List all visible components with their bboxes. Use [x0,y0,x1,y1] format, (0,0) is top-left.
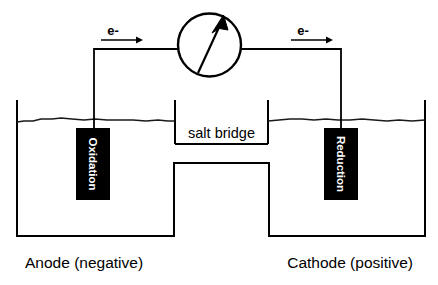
cathode-caption: Cathode (positive) [287,254,413,271]
anode-electrode: Oxidation [76,128,110,200]
cathode-electrode-label: Reduction [335,136,347,192]
anode-caption: Anode (negative) [25,254,143,271]
electrolyte-surface-left [17,118,175,122]
voltmeter-dial [178,14,241,77]
voltmeter [178,14,241,77]
salt-bridge-label: salt bridge [188,125,255,141]
electrochemical-cell-diagram: e- e- salt bridge Oxidation Reduction An… [0,0,438,285]
diagram-canvas: e- e- salt bridge Oxidation Reduction An… [0,0,438,285]
anode-electrode-label: Oxidation [87,137,99,190]
cathode-electrode: Reduction [324,128,358,200]
electron-label-right: e- [297,23,309,38]
electron-label-left: e- [107,23,119,38]
electrolyte-surface-right [268,119,425,121]
